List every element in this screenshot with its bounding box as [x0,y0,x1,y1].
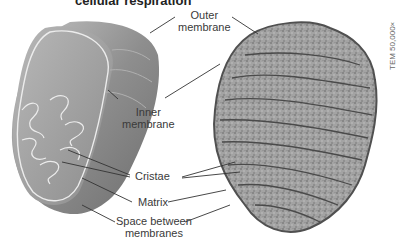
label-outer-membrane: Outer membrane [178,9,231,33]
label-cristae: Cristae [135,170,170,182]
label-inner-line2: membrane [122,118,175,130]
mitochondrion-figure: cellular respiration [0,0,404,247]
label-outer-line1: Outer [178,9,231,21]
label-inner-membrane: Inner membrane [122,106,175,130]
magnification-label: TEM 50,000× [388,22,397,70]
tem-micrograph [214,22,377,231]
figure-artwork [0,0,404,247]
label-matrix: Matrix [138,196,168,208]
label-space-line1: Space between [116,215,192,227]
label-space-line2: membranes [116,227,192,239]
label-outer-line2: membrane [178,21,231,33]
label-space-between-membranes: Space between membranes [116,215,192,239]
label-inner-line1: Inner [122,106,175,118]
